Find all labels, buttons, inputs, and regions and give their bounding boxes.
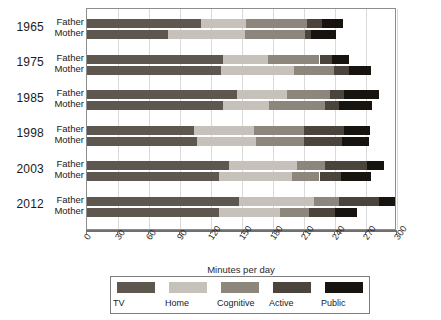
year-label-1965: 1965	[2, 20, 44, 34]
segment-tv	[87, 208, 219, 217]
row-label-2003-father: Father	[46, 158, 84, 169]
row-label-1998-mother: Mother	[46, 134, 84, 145]
row-label-2012-mother: Mother	[46, 205, 84, 216]
segment-active	[307, 19, 321, 28]
segment-tv	[87, 101, 223, 110]
legend-swatch-public	[325, 282, 363, 293]
segment-active	[325, 161, 367, 170]
segment-public	[311, 30, 336, 39]
segment-home	[223, 55, 267, 64]
segment-active	[304, 137, 342, 146]
legend-label-tv: TV	[113, 298, 125, 308]
row-label-1965-father: Father	[46, 16, 84, 27]
segment-public	[344, 90, 379, 99]
gridline-300	[397, 9, 398, 229]
legend-item-cognitive[interactable]: Cognitive	[215, 277, 267, 313]
segment-active	[309, 208, 335, 217]
segment-cognitive	[292, 172, 320, 181]
segment-public	[335, 208, 357, 217]
plot-area	[86, 8, 396, 230]
legend-label-public: Public	[321, 298, 346, 308]
segment-cognitive	[256, 137, 304, 146]
segment-home	[194, 126, 254, 135]
segment-home	[239, 197, 314, 206]
segment-tv	[87, 66, 221, 75]
bar-1998-father	[87, 126, 397, 135]
segment-public	[342, 137, 369, 146]
segment-active	[304, 126, 344, 135]
year-label-2012: 2012	[2, 197, 44, 211]
bar-1965-mother	[87, 30, 397, 39]
segment-tv	[87, 137, 197, 146]
year-label-1985: 1985	[2, 91, 44, 105]
segment-home	[219, 172, 291, 181]
row-label-1965-mother: Mother	[46, 27, 84, 38]
segment-active	[325, 101, 339, 110]
segment-home	[229, 161, 297, 170]
bar-2003-mother	[87, 172, 397, 181]
segment-home	[219, 208, 280, 217]
segment-tv	[87, 30, 168, 39]
legend-item-active[interactable]: Active	[267, 277, 319, 313]
legend-swatch-active	[273, 282, 311, 293]
segment-public	[322, 19, 344, 28]
segment-public	[332, 55, 350, 64]
bar-1998-mother	[87, 137, 397, 146]
legend-swatch-home	[169, 282, 207, 293]
segment-home	[197, 137, 257, 146]
segment-tv	[87, 19, 201, 28]
year-label-1998: 1998	[2, 126, 44, 140]
bar-2003-father	[87, 161, 397, 170]
stacked-bar-chart: FatherMotherFatherMotherFatherMotherFath…	[0, 0, 441, 320]
row-label-1985-mother: Mother	[46, 98, 84, 109]
bar-1975-mother	[87, 66, 397, 75]
year-label-2003: 2003	[2, 162, 44, 176]
legend-label-cognitive: Cognitive	[217, 298, 255, 308]
bar-2012-mother	[87, 208, 397, 217]
legend-item-home[interactable]: Home	[163, 277, 215, 313]
segment-tv	[87, 161, 229, 170]
segment-home	[221, 66, 293, 75]
row-label-2012-father: Father	[46, 194, 84, 205]
segment-tv	[87, 90, 237, 99]
segment-cognitive	[245, 30, 305, 39]
legend-item-public[interactable]: Public	[319, 277, 371, 313]
segment-public	[367, 161, 384, 170]
year-label-1975: 1975	[2, 55, 44, 69]
segment-public	[341, 172, 371, 181]
row-label-1985-father: Father	[46, 87, 84, 98]
legend-label-home: Home	[165, 298, 189, 308]
legend-swatch-tv	[117, 282, 155, 293]
segment-tv	[87, 197, 239, 206]
bar-1985-mother	[87, 101, 397, 110]
segment-public	[339, 101, 372, 110]
legend-swatch-cognitive	[221, 282, 259, 293]
bar-1985-father	[87, 90, 397, 99]
legend-label-active: Active	[269, 298, 294, 308]
segment-public	[344, 126, 370, 135]
segment-public	[349, 66, 371, 75]
segment-cognitive	[246, 19, 307, 28]
bar-2012-father	[87, 197, 397, 206]
segment-active	[320, 55, 332, 64]
segment-active	[330, 90, 344, 99]
row-label-1975-mother: Mother	[46, 63, 84, 74]
segment-cognitive	[297, 161, 325, 170]
segment-active	[339, 197, 379, 206]
legend-item-tv[interactable]: TV	[111, 277, 163, 313]
legend: TVHomeCognitiveActivePublic	[110, 276, 370, 314]
x-axis-title: Minutes per day	[86, 264, 396, 275]
tick-label-0: 0	[82, 232, 93, 242]
segment-home	[168, 30, 246, 39]
segment-cognitive	[314, 197, 339, 206]
segment-home	[237, 90, 288, 99]
segment-active	[334, 66, 350, 75]
segment-cognitive	[280, 208, 309, 217]
segment-home	[201, 19, 246, 28]
segment-home	[223, 101, 268, 110]
segment-tv	[87, 126, 194, 135]
bar-1965-father	[87, 19, 397, 28]
segment-tv	[87, 55, 223, 64]
row-label-2003-mother: Mother	[46, 169, 84, 180]
segment-cognitive	[287, 90, 329, 99]
